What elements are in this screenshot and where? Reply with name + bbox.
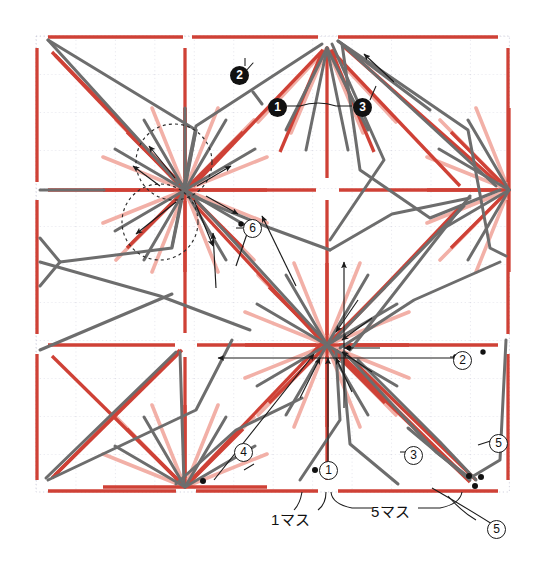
diagram-canvas: 1 2 3 1 2 3 4 5 5 6 1マス 5マス: [0, 0, 549, 564]
label-1-filled[interactable]: 1: [268, 98, 287, 117]
dimension-label-1-masu: 1マス: [271, 508, 311, 529]
label-6-ring[interactable]: 6: [243, 219, 262, 238]
label-2-filled[interactable]: 2: [230, 66, 249, 85]
label-3-ring[interactable]: 3: [404, 446, 423, 465]
label-5-ring-bottom[interactable]: 5: [487, 520, 506, 539]
label-3-filled[interactable]: 3: [353, 98, 372, 117]
label-1-ring[interactable]: 1: [319, 461, 338, 480]
label-2-ring[interactable]: 2: [453, 351, 472, 370]
dimension-label-5-masu: 5マス: [371, 500, 411, 521]
crease-pattern-svg: [0, 0, 549, 564]
label-5-ring-top[interactable]: 5: [489, 434, 508, 453]
label-4-ring[interactable]: 4: [234, 443, 253, 462]
